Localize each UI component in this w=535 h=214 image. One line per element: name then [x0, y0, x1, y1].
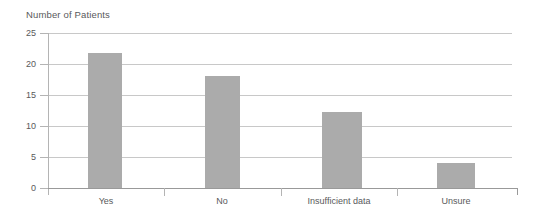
category-label-no: No — [216, 196, 228, 206]
y-tick-mark-10 — [40, 126, 48, 127]
y-tick-mark-25 — [40, 33, 48, 34]
y-tick-label-15: 15 — [2, 90, 36, 100]
y-tick-label-25: 25 — [2, 28, 36, 38]
bar-chart: Number of Patients 25 20 15 10 5 0 Yes N… — [0, 0, 535, 214]
plot-area — [48, 33, 512, 188]
y-tick-label-10: 10 — [2, 121, 36, 131]
x-axis-line — [48, 188, 518, 189]
category-label-yes: Yes — [99, 196, 114, 206]
chart-title: Number of Patients — [26, 9, 110, 20]
category-separator-3 — [397, 188, 398, 196]
category-label-insufficient-data: Insufficient data — [308, 196, 371, 206]
bar-yes — [88, 53, 122, 188]
bar-no — [205, 76, 240, 188]
y-tick-label-5: 5 — [2, 152, 36, 162]
category-separator-1 — [164, 188, 165, 196]
x-axis-end-tick — [517, 188, 518, 195]
y-tick-mark-20 — [40, 64, 48, 65]
y-tick-label-0: 0 — [2, 183, 36, 193]
category-separator-2 — [281, 188, 282, 196]
y-axis-line — [48, 33, 49, 195]
y-tick-label-20: 20 — [2, 59, 36, 69]
y-tick-mark-15 — [40, 95, 48, 96]
gridline-25 — [48, 33, 512, 34]
category-label-unsure: Unsure — [441, 196, 470, 206]
bar-insufficient-data — [322, 112, 362, 188]
bar-unsure — [437, 163, 475, 188]
y-tick-mark-0 — [40, 188, 48, 189]
y-tick-mark-5 — [40, 157, 48, 158]
